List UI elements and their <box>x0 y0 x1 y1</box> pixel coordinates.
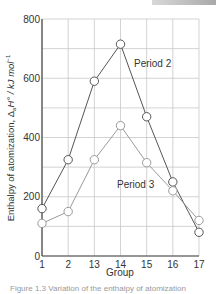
data-point-marker <box>38 219 46 227</box>
x-tick-label: 2 <box>65 259 71 270</box>
grid-lines <box>42 19 199 256</box>
data-point-marker <box>90 77 98 85</box>
data-point-marker <box>64 207 72 215</box>
y-tick-label: 400 <box>23 132 40 143</box>
data-point-marker <box>169 187 177 195</box>
y-tick-label: 600 <box>23 73 40 84</box>
figure-caption: Figure 1.3 Variation of the enthalpy of … <box>10 284 210 294</box>
data-point-marker <box>116 121 124 129</box>
y-tick-label: 200 <box>23 191 40 202</box>
x-axis-title: Group <box>106 267 134 278</box>
data-point-marker <box>38 204 46 212</box>
data-point-marker <box>90 156 98 164</box>
x-tick-label: 1 <box>39 259 45 270</box>
data-point-marker <box>169 178 177 186</box>
data-point-marker <box>116 40 124 48</box>
data-point-marker <box>195 216 203 224</box>
data-point-marker <box>64 156 72 164</box>
x-tick-label: 13 <box>89 259 101 270</box>
x-tick-label: 15 <box>141 259 153 270</box>
y-axis-title: Enthalpy of atomization, ΔaH° / kJ mol−1 <box>5 54 17 221</box>
period-3-label: Period 3 <box>117 179 155 190</box>
x-tick-label: 17 <box>193 259 205 270</box>
data-point-marker <box>142 113 150 121</box>
enthalpy-chart: 0200400600800 121314151617 Period 2 Peri… <box>0 0 216 294</box>
data-point-marker <box>142 158 150 166</box>
period-2-label: Period 2 <box>134 58 172 69</box>
data-point-marker <box>195 228 203 236</box>
y-tick-label: 800 <box>23 14 40 25</box>
x-tick-label: 16 <box>167 259 179 270</box>
